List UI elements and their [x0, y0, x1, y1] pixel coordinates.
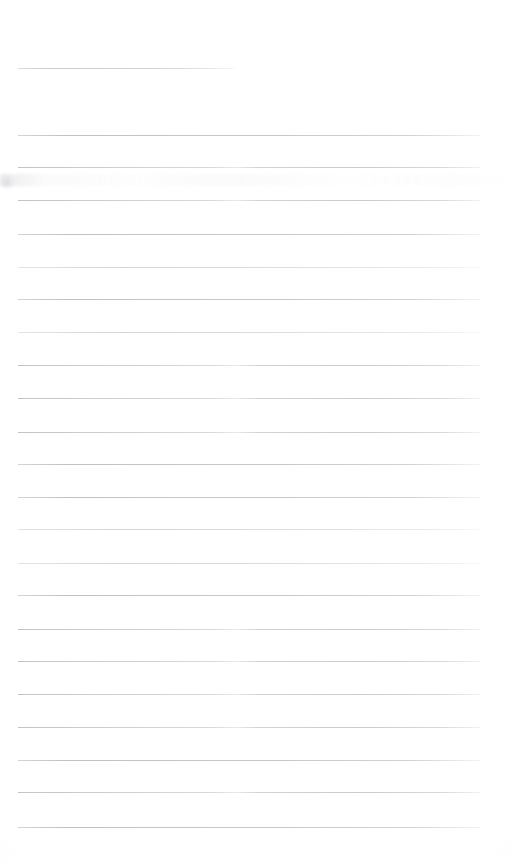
rule-14 [18, 529, 480, 530]
rule-19 [18, 694, 480, 695]
rule-10 [18, 398, 480, 399]
rule-22 [18, 792, 480, 793]
rule-08 [18, 332, 480, 333]
corner-smudge [0, 176, 14, 190]
rule-20 [18, 727, 480, 728]
rule-06 [18, 267, 480, 268]
rule-07 [18, 299, 480, 300]
rule-18 [18, 661, 480, 662]
rule-03 [18, 167, 480, 168]
rule-15 [18, 563, 480, 564]
rule-04 [18, 200, 480, 201]
rule-21 [18, 760, 480, 761]
scanner-smudge-band [0, 174, 512, 186]
rule-09 [18, 365, 480, 366]
rule-05 [18, 234, 480, 235]
rule-12 [18, 464, 480, 465]
rule-01-short [18, 68, 235, 69]
rule-23 [18, 827, 480, 828]
rule-02 [18, 135, 480, 136]
rule-13 [18, 497, 480, 498]
scanned-page [0, 0, 512, 863]
rule-17 [18, 629, 480, 630]
rule-16 [18, 595, 480, 596]
rule-11 [18, 432, 480, 433]
